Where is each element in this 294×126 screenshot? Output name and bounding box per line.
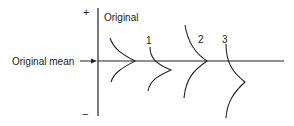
curve-3-distribution (226, 44, 245, 118)
curve-1-distribution (148, 47, 171, 91)
distribution-shift-diagram: + − Original mean Original 1 2 3 (0, 0, 294, 126)
plus-label: + (83, 6, 89, 18)
minus-label: − (82, 108, 88, 120)
curve-1-label: 1 (146, 35, 152, 46)
curve-3-label: 3 (222, 34, 228, 45)
original-curve-label: Original (104, 12, 138, 23)
arrow-head-icon (91, 59, 97, 64)
original-distribution-curve (110, 38, 135, 82)
original-mean-label: Original mean (12, 56, 74, 67)
curve-2-label: 2 (198, 34, 204, 45)
